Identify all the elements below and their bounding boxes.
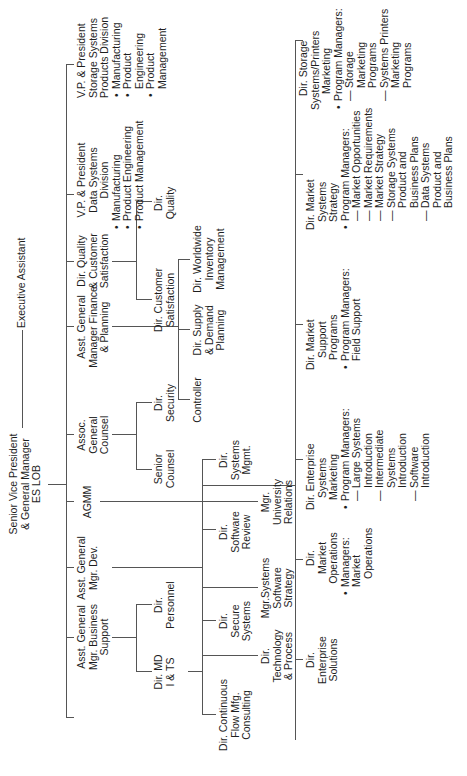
connector bbox=[178, 259, 190, 260]
connector bbox=[178, 399, 190, 400]
connector bbox=[112, 261, 136, 262]
node-dir-market-operations: Dir. Market Operations Managers: Market … bbox=[305, 520, 374, 596]
connector bbox=[66, 261, 74, 262]
node-title: ES LOB bbox=[31, 428, 43, 540]
connector bbox=[66, 326, 74, 327]
connector bbox=[202, 587, 258, 588]
connector bbox=[22, 330, 23, 428]
node-dir-customer-satisfaction: Dir. Customer Satisfaction bbox=[153, 260, 176, 340]
node-vp-storage-systems: V.P. & President Storage Systems Product… bbox=[76, 2, 168, 98]
connector bbox=[66, 64, 74, 65]
node-dir-quality: Dir. Quality bbox=[153, 180, 176, 226]
node-executive-assistant: Executive Assistant bbox=[16, 218, 28, 328]
connector bbox=[202, 501, 258, 502]
connector bbox=[295, 174, 303, 175]
node-mgr-university-relations: Mgr. University Relations bbox=[260, 472, 295, 532]
node-assoc-general-counsel: Assoc. General Counsel bbox=[76, 410, 111, 460]
connector bbox=[188, 671, 202, 672]
node-agm-finance: Asst. General Manager Finance & Planning bbox=[76, 284, 111, 370]
node-dir-market-support-programs: Dir. Market Support Programs Program Man… bbox=[305, 270, 363, 370]
node-dir-secure-systems: Dir. Secure Systems bbox=[218, 596, 253, 646]
node-dir-market-systems-strategy: Dir. Market Systems Strategy Program Man… bbox=[305, 120, 455, 230]
node-dir-technology-process: Dir. Technology & Process bbox=[260, 628, 295, 684]
connector bbox=[48, 484, 66, 485]
connector bbox=[136, 671, 152, 672]
connector bbox=[136, 605, 137, 672]
node-dir-enterprise-solutions: Dir. Enterprise Solutions bbox=[305, 632, 340, 688]
connector bbox=[178, 329, 190, 330]
connector bbox=[178, 260, 179, 400]
node-dir-enterprise-systems-marketing: Dir. Enterprise Systems Marketing Progra… bbox=[305, 410, 432, 510]
node-agm-dev: Asst. General Mgr. Dev. bbox=[76, 536, 99, 600]
connector bbox=[66, 717, 74, 718]
node-dir-continuous-flow: Dir. Continuous Flow Mfg. Consulting bbox=[218, 674, 253, 756]
node-dir-quality-cs: Dir. Quality & Customer Satisfaction bbox=[76, 230, 111, 292]
connector bbox=[66, 434, 74, 435]
node-controller: Controller bbox=[192, 370, 204, 430]
connector bbox=[136, 403, 137, 470]
connector bbox=[295, 40, 296, 740]
node-dir-personnel: Dir. Personnel bbox=[153, 580, 176, 630]
connector bbox=[202, 620, 216, 621]
connector bbox=[295, 659, 303, 660]
connector bbox=[202, 459, 216, 460]
node-mgr-systems-software-strategy: Mgr.Systems Software Strategy bbox=[260, 556, 295, 620]
connector bbox=[100, 501, 202, 502]
connector bbox=[295, 324, 303, 325]
node-senior-vp: Senior Vice President & General Manager … bbox=[8, 428, 43, 540]
connector bbox=[112, 637, 136, 638]
node-dir-md-its: Dir. MD I & TS bbox=[153, 650, 176, 694]
node-dir-worldwide-inventory: Dir. Worldwide Inventory Management bbox=[192, 220, 227, 298]
node-agm-business-support: Asst. General Mgr. Business Support bbox=[76, 602, 111, 672]
connector bbox=[66, 567, 74, 568]
node-dir-supply-demand: Dir. Supply & Demand Planning bbox=[192, 298, 227, 362]
node-dir-software-review: Dir. Software Review bbox=[218, 504, 253, 560]
node-vp-data-systems: V.P. & President Data Systems Division M… bbox=[76, 130, 145, 230]
connector bbox=[202, 714, 216, 715]
connector bbox=[136, 402, 152, 403]
connector bbox=[112, 567, 202, 568]
org-chart: Senior Vice President & General Manager … bbox=[0, 0, 467, 776]
connector bbox=[136, 299, 152, 300]
node-agmm: AGMM bbox=[82, 482, 94, 522]
connector bbox=[136, 604, 152, 605]
connector bbox=[295, 559, 303, 560]
node-dir-systems-mgmt: Dir. Systems Mgmt. bbox=[218, 434, 253, 486]
connector bbox=[202, 529, 216, 530]
node-dir-security: Dir. Security bbox=[153, 380, 176, 426]
connector bbox=[112, 434, 136, 435]
connector bbox=[66, 501, 74, 502]
connector bbox=[202, 655, 258, 656]
connector bbox=[136, 469, 152, 470]
connector bbox=[66, 194, 74, 195]
connector bbox=[66, 64, 67, 718]
node-senior-counsel: Senior Counsel bbox=[153, 446, 176, 492]
connector bbox=[66, 637, 74, 638]
node-title: Senior Vice President bbox=[8, 428, 20, 540]
node-dir-storage-printers-marketing: Dir. Storage Systems/Printers Marketing … bbox=[298, 4, 413, 110]
connector bbox=[295, 459, 303, 460]
